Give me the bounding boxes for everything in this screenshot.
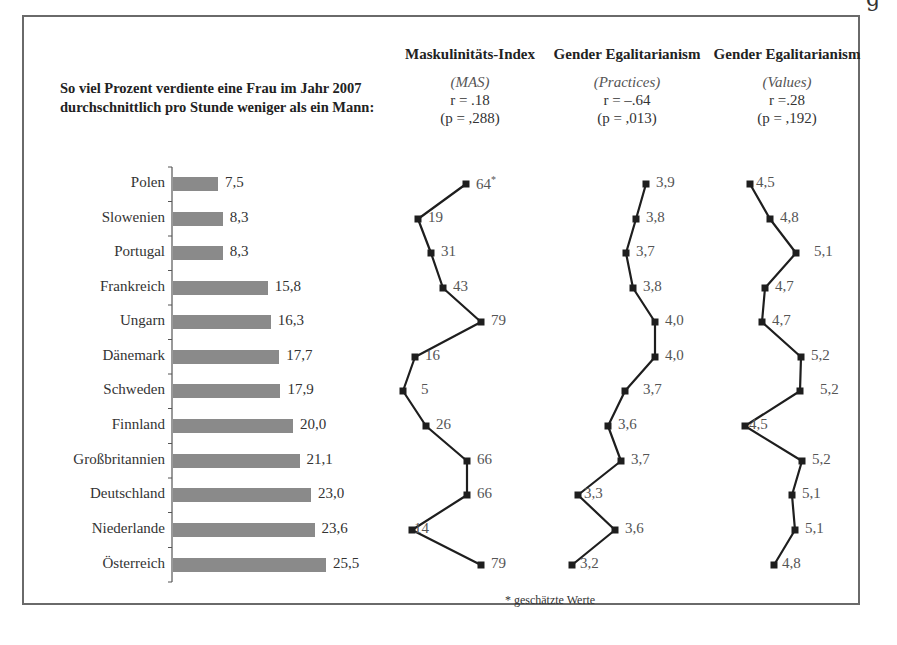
mas-value-label: 64*: [476, 174, 496, 193]
mas-marker: [440, 285, 447, 292]
mas-marker: [464, 458, 471, 465]
values-marker: [762, 285, 769, 292]
values-value-label: 4,5: [749, 416, 768, 433]
practices-marker: [652, 354, 659, 361]
practices-marker: [630, 285, 637, 292]
practices-value-label: 3,8: [646, 209, 665, 226]
values-value-label: 4,7: [772, 312, 791, 329]
mas-value-label: 14: [414, 520, 429, 537]
practices-value-label: 3,6: [618, 416, 637, 433]
practices-value-label: 4,0: [665, 312, 684, 329]
values-line: [745, 184, 802, 565]
practices-marker: [618, 458, 625, 465]
practices-value-label: 3,8: [643, 278, 662, 295]
values-value-label: 5,2: [811, 347, 830, 364]
practices-marker: [633, 216, 640, 223]
mas-marker: [478, 562, 485, 569]
mas-marker: [415, 216, 422, 223]
values-value-label: 5,2: [812, 451, 831, 468]
values-marker: [771, 562, 778, 569]
mas-value-label: 79: [491, 312, 506, 329]
values-marker: [797, 388, 804, 395]
practices-value-label: 3,7: [643, 381, 662, 398]
values-value-label: 4,5: [756, 174, 775, 191]
mas-value-label: 31: [441, 243, 456, 260]
practices-marker: [643, 181, 650, 188]
mas-marker: [463, 181, 470, 188]
mas-marker: [412, 354, 419, 361]
values-value-label: 5,1: [805, 520, 824, 537]
practices-marker: [612, 527, 619, 534]
mas-line: [403, 184, 481, 565]
values-value-label: 5,1: [802, 485, 821, 502]
values-value-label: 5,2: [820, 381, 839, 398]
values-marker: [792, 527, 799, 534]
values-value-label: 5,1: [814, 243, 833, 260]
values-value-label: 4,7: [775, 278, 794, 295]
mas-value-label: 66: [477, 485, 492, 502]
practices-marker: [623, 250, 630, 257]
practices-marker: [652, 319, 659, 326]
values-marker: [798, 354, 805, 361]
mas-value-label: 66: [477, 451, 492, 468]
values-marker: [747, 181, 754, 188]
values-marker: [799, 458, 806, 465]
mas-marker: [400, 388, 407, 395]
practices-marker: [575, 492, 582, 499]
mas-value-label: 79: [491, 555, 506, 572]
mas-value-label: 16: [425, 347, 440, 364]
practices-marker: [622, 388, 629, 395]
estimate-asterisk: *: [491, 174, 496, 185]
mas-marker: [423, 423, 430, 430]
mas-marker: [428, 250, 435, 257]
mas-value-label: 43: [453, 278, 468, 295]
values-marker: [742, 423, 749, 430]
values-value-label: 4,8: [782, 555, 801, 572]
practices-value-label: 4,0: [665, 347, 684, 364]
mas-value-label: 5: [421, 381, 429, 398]
practices-value-label: 3,9: [656, 174, 675, 191]
footnote: * geschätzte Werte: [400, 593, 700, 608]
practices-value-label: 3,6: [625, 520, 644, 537]
values-marker: [793, 250, 800, 257]
values-marker: [789, 492, 796, 499]
practices-value-label: 3,7: [631, 451, 650, 468]
practices-value-label: 3,3: [584, 485, 603, 502]
values-marker: [767, 216, 774, 223]
practices-marker: [569, 562, 576, 569]
values-marker: [759, 319, 766, 326]
mas-marker: [464, 492, 471, 499]
line-profiles: [0, 0, 897, 645]
mas-marker: [478, 319, 485, 326]
practices-value-label: 3,7: [636, 243, 655, 260]
practices-line: [572, 184, 655, 565]
practices-value-label: 3,2: [580, 555, 599, 572]
values-value-label: 4,8: [780, 209, 799, 226]
mas-value-label: 26: [436, 416, 451, 433]
practices-marker: [605, 423, 612, 430]
mas-value-label: 19: [428, 209, 443, 226]
